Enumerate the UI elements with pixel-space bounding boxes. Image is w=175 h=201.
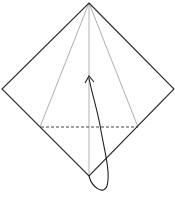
- left-crease-line: [40, 3, 89, 127]
- origami-diagram: [0, 0, 175, 201]
- paper-outline: [2, 3, 174, 176]
